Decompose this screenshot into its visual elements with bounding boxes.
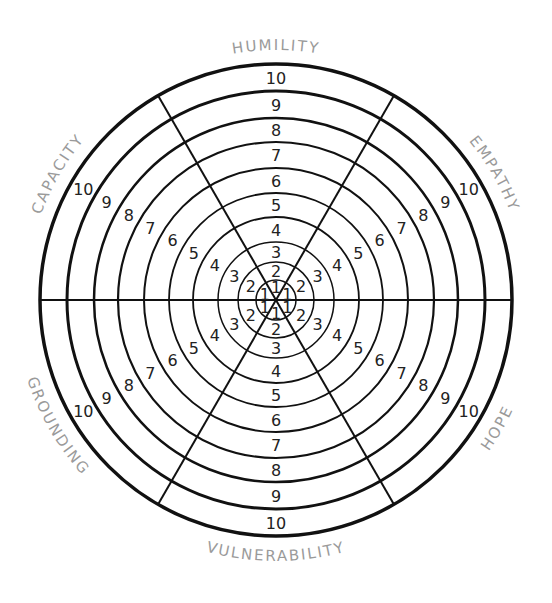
ring-number[interactable]: 5 <box>189 339 199 358</box>
ring-number[interactable]: 6 <box>374 231 384 250</box>
ring-number[interactable]: 6 <box>167 231 177 250</box>
ring-number[interactable]: 5 <box>353 339 363 358</box>
ring-number[interactable]: 2 <box>246 306 256 325</box>
ring-number[interactable]: 5 <box>353 244 363 263</box>
ring-number[interactable]: 4 <box>332 326 342 345</box>
ring-number[interactable]: 8 <box>271 461 281 480</box>
ring-number[interactable]: 7 <box>271 436 281 455</box>
segment-label-humility: HUMILITY <box>231 36 322 58</box>
ring-number[interactable]: 9 <box>271 487 281 506</box>
ring-number[interactable]: 8 <box>124 206 134 225</box>
ring-number[interactable]: 8 <box>271 121 281 140</box>
ring-number[interactable]: 10 <box>266 69 286 88</box>
ring-number[interactable]: 2 <box>271 320 281 339</box>
ring-number[interactable]: 3 <box>229 267 239 286</box>
ring-number[interactable]: 1 <box>282 298 292 317</box>
ring-number[interactable]: 10 <box>73 180 93 199</box>
ring-number[interactable]: 7 <box>145 219 155 238</box>
ring-number[interactable]: 4 <box>210 326 220 345</box>
self-assessment-wheel: 1234567891012345678910123456789101234567… <box>0 0 552 603</box>
ring-number[interactable]: 5 <box>189 244 199 263</box>
ring-number[interactable]: 6 <box>271 411 281 430</box>
ring-number[interactable]: 10 <box>459 402 479 421</box>
ring-number[interactable]: 3 <box>312 267 322 286</box>
ring-number[interactable]: 8 <box>124 376 134 395</box>
ring-number[interactable]: 4 <box>271 221 281 240</box>
ring-number[interactable]: 3 <box>229 315 239 334</box>
ring-number[interactable]: 9 <box>440 193 450 212</box>
ring-number[interactable]: 10 <box>73 402 93 421</box>
ring-number[interactable]: 7 <box>396 219 406 238</box>
ring-number[interactable]: 4 <box>271 362 281 381</box>
ring-number[interactable]: 7 <box>145 364 155 383</box>
ring-number[interactable]: 5 <box>271 386 281 405</box>
ring-number[interactable]: 3 <box>312 315 322 334</box>
ring-number[interactable]: 2 <box>271 262 281 281</box>
segment-label-vulnerability: VULNERABILITY <box>205 538 348 565</box>
ring-number[interactable]: 10 <box>459 180 479 199</box>
ring-number[interactable]: 2 <box>246 277 256 296</box>
ring-number[interactable]: 6 <box>271 172 281 191</box>
ring-number[interactable]: 6 <box>374 351 384 370</box>
ring-number[interactable]: 9 <box>102 193 112 212</box>
ring-number[interactable]: 10 <box>266 514 286 533</box>
ring-number[interactable]: 2 <box>296 306 306 325</box>
ring-number[interactable]: 1 <box>260 285 270 304</box>
ring-number[interactable]: 4 <box>210 256 220 275</box>
ring-number[interactable]: 7 <box>271 146 281 165</box>
ring-number[interactable]: 8 <box>418 206 428 225</box>
ring-number[interactable]: 9 <box>271 96 281 115</box>
ring-number[interactable]: 3 <box>271 243 281 262</box>
ring-number[interactable]: 9 <box>440 389 450 408</box>
ring-number[interactable]: 5 <box>271 196 281 215</box>
ring-number[interactable]: 4 <box>332 256 342 275</box>
ring-number[interactable]: 7 <box>396 364 406 383</box>
ring-number[interactable]: 3 <box>271 339 281 358</box>
ring-number[interactable]: 8 <box>418 376 428 395</box>
ring-number[interactable]: 9 <box>102 389 112 408</box>
ring-number[interactable]: 6 <box>167 351 177 370</box>
ring-number[interactable]: 2 <box>296 277 306 296</box>
